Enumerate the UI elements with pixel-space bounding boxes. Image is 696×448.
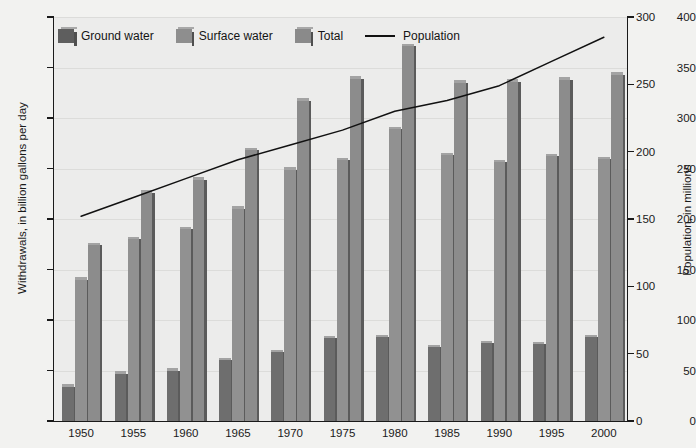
bar-side-face bbox=[623, 75, 626, 421]
y-axis-left-title: Withdrawals, in billion gallons per day bbox=[16, 83, 28, 313]
x-tick-label-2000: 2000 bbox=[574, 427, 634, 439]
y-tick-label-left: 350 bbox=[652, 62, 696, 74]
bar-side-face bbox=[466, 83, 469, 421]
bar-ground-water-1955 bbox=[115, 374, 127, 421]
bar-ground-water-1980 bbox=[376, 337, 388, 421]
legend-item-population: Population bbox=[365, 29, 460, 43]
bar-top-face bbox=[454, 80, 466, 83]
bar-top-face bbox=[376, 335, 388, 338]
legend-item-surface-water: Surface water bbox=[176, 29, 273, 43]
bar-side-face bbox=[100, 245, 103, 421]
x-tick-label-1990: 1990 bbox=[469, 427, 529, 439]
bar-top-face bbox=[533, 342, 545, 345]
bar-ground-water-2000 bbox=[585, 337, 597, 421]
bar-ground-water-1970 bbox=[271, 352, 283, 421]
bar-top-face bbox=[193, 177, 205, 180]
bar-top-face bbox=[141, 190, 153, 193]
bar-top-face bbox=[297, 98, 309, 101]
bar-ground-water-1995 bbox=[533, 344, 545, 421]
bar-side-face bbox=[361, 79, 364, 421]
x-axis-line bbox=[53, 421, 629, 422]
y-tick-left bbox=[47, 218, 53, 219]
bar-side-face bbox=[414, 46, 417, 421]
x-tick-label-1995: 1995 bbox=[522, 427, 582, 439]
y-tick-right bbox=[628, 151, 634, 152]
gridline bbox=[53, 68, 628, 69]
y-tick-right bbox=[628, 84, 634, 85]
legend-swatch-surface-water-icon bbox=[176, 29, 192, 43]
bar-surface-water-1960 bbox=[180, 229, 192, 421]
bar-surface-water-1955 bbox=[128, 239, 140, 421]
chart-legend: Ground water Surface water Total Populat… bbox=[58, 27, 460, 45]
bar-surface-water-2000 bbox=[598, 159, 610, 421]
bar-side-face bbox=[518, 82, 521, 421]
bar-total-1960 bbox=[193, 180, 205, 421]
x-tick-label-1955: 1955 bbox=[103, 427, 163, 439]
bar-top-face bbox=[546, 154, 558, 157]
legend-line-population-icon bbox=[365, 35, 395, 37]
y-tick-label-right: 50 bbox=[636, 348, 680, 360]
water-withdrawals-chart: 050100150200250300350400 050100150200250… bbox=[0, 0, 696, 448]
bar-top-face bbox=[128, 237, 140, 240]
y-axis-left-line bbox=[53, 16, 54, 422]
bar-ground-water-1990 bbox=[481, 343, 493, 421]
bar-top-face bbox=[167, 368, 179, 371]
y-tick-right bbox=[628, 286, 634, 287]
legend-item-ground-water: Ground water bbox=[58, 29, 154, 43]
x-tick-label-1985: 1985 bbox=[417, 427, 477, 439]
bar-ground-water-1960 bbox=[167, 371, 179, 422]
y-tick-left bbox=[47, 370, 53, 371]
y-tick-left bbox=[47, 168, 53, 169]
bar-top-face bbox=[350, 76, 362, 79]
bar-top-face bbox=[441, 153, 453, 156]
y-tick-right bbox=[628, 420, 634, 421]
bar-top-face bbox=[559, 77, 571, 80]
bar-total-1995 bbox=[559, 80, 571, 421]
bar-top-face bbox=[88, 243, 100, 246]
legend-label-population: Population bbox=[403, 29, 460, 43]
y-tick-left bbox=[47, 67, 53, 68]
legend-label-total: Total bbox=[318, 29, 343, 43]
y-tick-label-right: 100 bbox=[636, 280, 680, 292]
bar-total-1955 bbox=[141, 193, 153, 421]
bar-top-face bbox=[611, 72, 623, 75]
legend-item-total: Total bbox=[295, 29, 343, 43]
x-tick-label-1950: 1950 bbox=[51, 427, 111, 439]
bar-top-face bbox=[180, 227, 192, 230]
y-tick-right bbox=[628, 218, 634, 219]
bar-surface-water-1970 bbox=[284, 170, 296, 421]
bar-total-1975 bbox=[350, 79, 362, 421]
y-tick-right bbox=[628, 353, 634, 354]
bar-top-face bbox=[284, 167, 296, 170]
bar-side-face bbox=[309, 101, 312, 421]
bar-top-face bbox=[232, 206, 244, 209]
bar-top-face bbox=[389, 127, 401, 130]
y-tick-left bbox=[47, 269, 53, 270]
y-tick-left bbox=[47, 16, 53, 17]
bar-top-face bbox=[585, 335, 597, 338]
y-tick-left bbox=[47, 420, 53, 421]
legend-label-ground-water: Ground water bbox=[81, 29, 154, 43]
bar-ground-water-1985 bbox=[428, 347, 440, 421]
x-tick-label-1965: 1965 bbox=[208, 427, 268, 439]
bar-top-face bbox=[337, 158, 349, 161]
bar-surface-water-1965 bbox=[232, 209, 244, 421]
bar-side-face bbox=[570, 80, 573, 421]
bar-surface-water-1950 bbox=[75, 280, 87, 421]
y-tick-label-right: 250 bbox=[636, 78, 680, 90]
bar-total-1965 bbox=[245, 150, 257, 421]
bar-top-face bbox=[507, 79, 519, 82]
bar-side-face bbox=[204, 180, 207, 421]
legend-swatch-total-icon bbox=[295, 29, 311, 43]
bar-top-face bbox=[428, 345, 440, 348]
x-tick-label-1970: 1970 bbox=[260, 427, 320, 439]
bar-side-face bbox=[152, 193, 155, 421]
bar-total-1970 bbox=[297, 101, 309, 421]
bar-total-1985 bbox=[454, 83, 466, 421]
bar-total-1990 bbox=[507, 82, 519, 421]
x-tick-label-1975: 1975 bbox=[313, 427, 373, 439]
gridline bbox=[53, 118, 628, 119]
bar-top-face bbox=[245, 148, 257, 151]
bar-total-1980 bbox=[402, 46, 414, 421]
bar-surface-water-1975 bbox=[337, 160, 349, 421]
